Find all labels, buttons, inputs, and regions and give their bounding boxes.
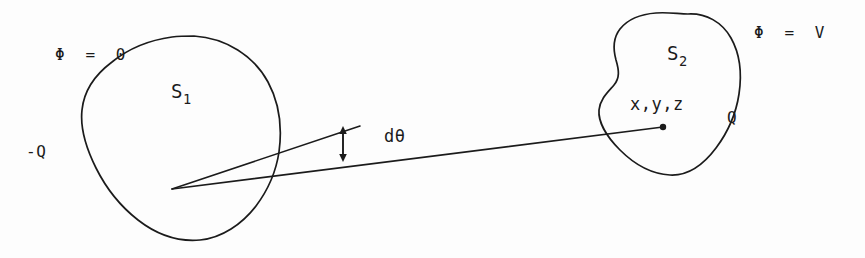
figure-canvas: Φ = 0 S1 -Q dθ Φ = V S2 x,y,z Q bbox=[0, 0, 865, 258]
label-surface-s2: S2 bbox=[667, 42, 687, 69]
label-angle-d-theta: dθ bbox=[384, 126, 405, 146]
ray-lower bbox=[172, 127, 663, 189]
blob-s1-outline bbox=[82, 36, 281, 240]
field-point-dot bbox=[660, 124, 666, 130]
label-charge-negative-q: -Q bbox=[26, 142, 46, 161]
label-surface-s1-base: S bbox=[171, 80, 183, 102]
ray-upper bbox=[172, 126, 360, 189]
label-potential-right: Φ = V bbox=[754, 23, 825, 42]
label-surface-s1-subscript: 1 bbox=[183, 91, 191, 107]
label-surface-s2-subscript: 2 bbox=[679, 53, 687, 69]
label-point-coordinates: x,y,z bbox=[630, 94, 684, 114]
label-potential-left: Φ = 0 bbox=[55, 45, 126, 64]
label-charge-positive-q: Q bbox=[727, 108, 737, 127]
label-surface-s1: S1 bbox=[171, 80, 191, 107]
diagram-svg bbox=[0, 0, 865, 258]
label-surface-s2-base: S bbox=[667, 42, 679, 64]
